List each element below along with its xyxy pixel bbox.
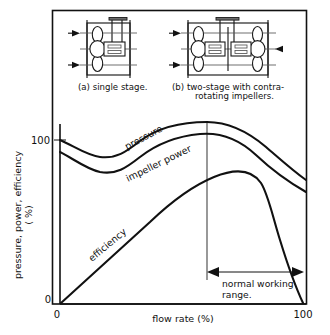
working-range-arrow-left	[207, 267, 219, 277]
y-tick-label-0: 0	[45, 294, 51, 305]
curve-label-efficiency: efficiency	[86, 226, 128, 264]
working-range-label-line1: normal working	[222, 278, 294, 289]
y-axis-label-line1: pressure, power, efficiency	[12, 151, 23, 279]
diagram-a-caption: (a) single stage.	[78, 82, 147, 92]
normal-working-range-annotation: normal working range.	[207, 267, 304, 300]
diagram-two-stage: (b) two-stage with contra- rotating impe…	[169, 18, 284, 102]
curve-label-pressure: pressure	[123, 123, 165, 152]
y-tick-label-100: 100	[31, 135, 50, 146]
y-axis-label-line2: ( %)	[23, 205, 34, 224]
x-tick-label-0: 0	[54, 309, 60, 320]
curve-label-impeller-power: impeller power	[124, 143, 193, 184]
diagram-single-stage: (a) single stage.	[68, 18, 147, 93]
figure-page: (a) single stage.	[0, 0, 330, 335]
x-axis-label: flow rate (%)	[152, 313, 213, 324]
curve-impeller-power	[60, 134, 306, 192]
working-range-arrow-right	[292, 267, 304, 277]
x-tick-label-100: 100	[293, 309, 312, 320]
diagram-b-caption-line2: rotating impellers.	[195, 91, 274, 101]
pump-performance-figure: (a) single stage.	[0, 0, 330, 335]
working-range-label-line2: range.	[222, 289, 252, 300]
